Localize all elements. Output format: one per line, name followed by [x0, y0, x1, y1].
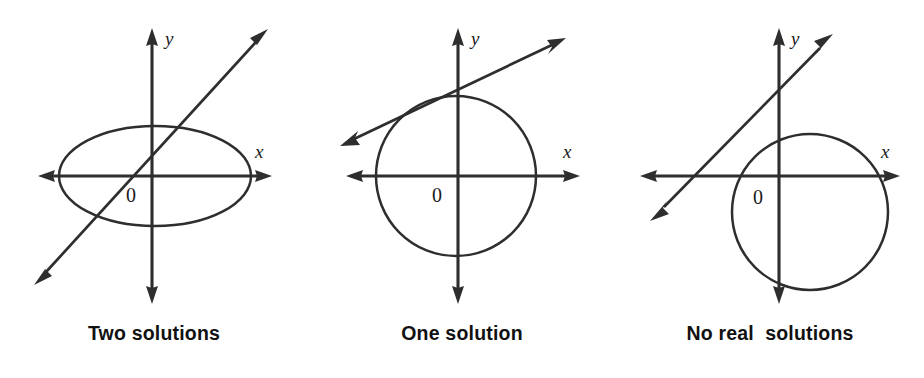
diagram-no-real-solutions: y x 0: [616, 0, 924, 320]
conic-circle: [732, 134, 888, 290]
x-axis-right-arrowhead: [883, 170, 900, 182]
x-axis-right-arrowhead: [255, 170, 272, 182]
tangent-line-one-solution: [340, 38, 566, 146]
origin-label: 0: [753, 186, 763, 208]
y-axis-no-real-solutions: [773, 28, 785, 304]
x-axis-no-real-solutions: [640, 170, 900, 182]
y-axis-bottom-arrowhead: [452, 286, 464, 304]
y-axis-bottom-arrowhead: [773, 286, 785, 304]
y-axis-label: y: [789, 28, 800, 49]
line-upper-right-arrowhead: [250, 29, 268, 52]
y-axis-bottom-arrowhead: [146, 286, 158, 304]
caption-no-real-solutions: No real solutions: [616, 322, 924, 345]
x-axis-label: x: [254, 141, 264, 162]
diagram-two-solutions: y x 0: [0, 0, 308, 320]
caption-one-solution: One solution: [308, 322, 616, 345]
origin-label: 0: [126, 184, 136, 206]
origin-label: 0: [432, 184, 442, 206]
diagram-one-solution: y x 0: [308, 0, 616, 320]
line-lower-left-arrowhead: [34, 262, 52, 285]
y-axis-top-arrowhead: [773, 28, 785, 46]
solutions-figure: y x 0 Two solutions: [0, 0, 924, 378]
caption-two-solutions: Two solutions: [0, 322, 308, 345]
y-axis-top-arrowhead: [452, 28, 464, 46]
x-axis-label: x: [880, 141, 890, 162]
x-axis-one-solution: [346, 170, 580, 182]
x-axis-left-arrowhead: [38, 170, 55, 182]
y-axis-two-solutions: [146, 28, 158, 304]
panel-one-solution: y x 0 One solution: [308, 0, 616, 378]
y-axis-one-solution: [452, 28, 464, 304]
x-axis-label: x: [562, 141, 572, 162]
y-axis-top-arrowhead: [146, 28, 158, 46]
x-axis-left-arrowhead: [346, 170, 363, 182]
panel-two-solutions: y x 0 Two solutions: [0, 0, 308, 378]
disjoint-line-no-real-solutions: [650, 34, 833, 221]
panel-no-real-solutions: y x 0 No real solutions: [616, 0, 924, 378]
x-axis-right-arrowhead: [563, 170, 580, 182]
x-axis-left-arrowhead: [640, 170, 657, 182]
x-axis-two-solutions: [38, 170, 272, 182]
y-axis-label: y: [469, 28, 480, 49]
y-axis-label: y: [163, 28, 174, 49]
